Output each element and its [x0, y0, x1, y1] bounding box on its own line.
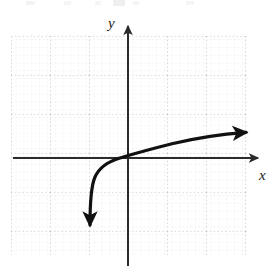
x-axis-label: x [258, 167, 266, 183]
graph-screenshot: x y [0, 0, 275, 266]
y-axis-label: y [106, 15, 115, 31]
graph-figure: x y [0, 0, 275, 266]
clipped-header-remnant [26, 0, 194, 6]
